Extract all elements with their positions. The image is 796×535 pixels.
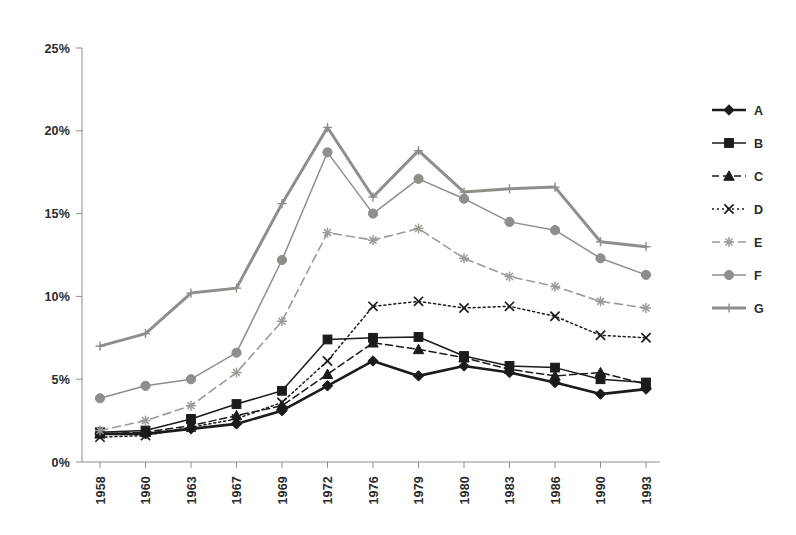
marker-circle	[550, 226, 559, 235]
marker-square	[414, 333, 423, 342]
x-axis-tick-label: 1980	[458, 476, 472, 505]
y-axis-tick-label: 20%	[44, 124, 70, 138]
marker-star	[505, 272, 515, 282]
marker-circle	[186, 375, 195, 384]
x-axis-tick-label: 1967	[230, 476, 244, 505]
y-axis-tick-label: 15%	[44, 207, 70, 221]
x-axis-tick-label: 1990	[594, 476, 608, 505]
marker-star	[641, 303, 651, 313]
y-axis-tick-label: 5%	[52, 373, 70, 387]
marker-star	[141, 416, 151, 426]
marker-star	[414, 224, 424, 234]
legend-label-c: C	[754, 170, 763, 184]
marker-circle	[414, 174, 423, 183]
marker-circle	[277, 255, 286, 264]
x-axis-tick-label: 1969	[276, 476, 290, 505]
marker-star	[277, 316, 287, 326]
legend-label-d: D	[754, 203, 763, 217]
marker-star	[95, 426, 105, 436]
marker-circle	[505, 217, 514, 226]
line-chart-figure: 0%5%10%15%20%25% 19581960196319671969197…	[0, 0, 796, 535]
marker-star	[323, 228, 333, 238]
y-axis-tick-label: 0%	[52, 456, 70, 470]
x-axis-tick-label: 1983	[503, 476, 517, 505]
marker-square	[725, 139, 734, 148]
marker-star	[724, 237, 734, 247]
chart-canvas: 0%5%10%15%20%25% 19581960196319671969197…	[0, 0, 796, 535]
legend-label-b: B	[754, 137, 763, 151]
marker-square	[278, 386, 287, 395]
x-axis-tick-label: 1986	[549, 476, 563, 505]
marker-star	[368, 235, 378, 245]
marker-square	[323, 335, 332, 344]
x-axis-tick-label: 1976	[367, 476, 381, 505]
marker-circle	[141, 381, 150, 390]
marker-circle	[368, 209, 377, 218]
x-axis-tick-label: 1960	[139, 476, 153, 505]
legend-label-g: G	[754, 302, 764, 316]
x-axis-tick-label: 1972	[321, 476, 335, 505]
y-axis-tick-label: 25%	[44, 42, 70, 56]
marker-circle	[596, 254, 605, 263]
marker-circle	[323, 148, 332, 157]
legend-label-e: E	[754, 236, 762, 250]
x-axis-tick-label: 1963	[185, 476, 199, 505]
legend-label-f: F	[754, 269, 762, 283]
marker-circle	[95, 394, 104, 403]
marker-square	[232, 400, 241, 409]
marker-star	[596, 296, 606, 306]
marker-star	[186, 401, 196, 411]
legend-label-a: A	[754, 104, 763, 118]
marker-circle	[724, 270, 733, 279]
x-axis-tick-label: 1958	[94, 476, 108, 505]
x-axis-tick-label: 1993	[640, 476, 654, 505]
x-axis-tick-label: 1979	[412, 476, 426, 505]
y-axis-tick-label: 10%	[44, 290, 70, 304]
marker-circle	[232, 348, 241, 357]
marker-star	[550, 281, 560, 291]
marker-star	[459, 253, 469, 263]
chart-background	[0, 0, 796, 535]
marker-star	[232, 368, 242, 378]
marker-circle	[641, 270, 650, 279]
